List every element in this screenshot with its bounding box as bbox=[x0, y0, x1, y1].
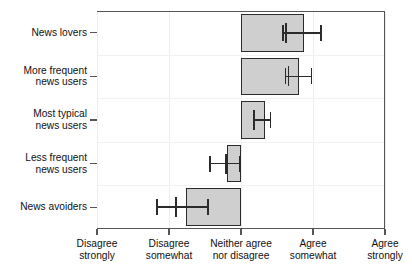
y-tick-mark-5 bbox=[90, 207, 97, 208]
error-bar-cap-1-low bbox=[282, 25, 284, 41]
gridline-horizontal bbox=[98, 142, 384, 143]
y-tick-mark-2 bbox=[90, 76, 97, 77]
error-bar-cap-4-low bbox=[209, 156, 211, 172]
y-axis-label-4: Less frequent news users bbox=[2, 152, 87, 175]
error-bar-line-5 bbox=[157, 206, 208, 208]
gridline-vertical bbox=[97, 12, 98, 228]
gridline-horizontal bbox=[98, 98, 384, 99]
y-tick-mark-4 bbox=[90, 163, 97, 164]
error-bar-cap-1-high bbox=[320, 25, 322, 41]
x-tick-mark-4 bbox=[312, 229, 313, 235]
y-axis-label-5: News avoiders bbox=[2, 201, 87, 213]
gridline-vertical bbox=[169, 12, 170, 228]
gridline-horizontal bbox=[98, 185, 384, 186]
point-estimate-marker-5 bbox=[175, 197, 177, 217]
chart-root: News loversMore frequent news usersMost … bbox=[0, 0, 412, 272]
y-tick-mark-1 bbox=[90, 32, 97, 33]
x-tick-mark-3 bbox=[240, 229, 241, 235]
point-estimate-marker-1 bbox=[285, 23, 287, 43]
y-axis-label-2: More frequent news users bbox=[2, 65, 87, 88]
point-estimate-marker-4 bbox=[225, 154, 227, 174]
x-tick-mark-1 bbox=[96, 229, 97, 235]
point-estimate-marker-3 bbox=[253, 110, 255, 130]
gridline-vertical bbox=[385, 12, 386, 228]
error-bar-line-3 bbox=[254, 119, 271, 121]
point-estimate-marker-2 bbox=[288, 66, 290, 86]
y-axis-label-1: News lovers bbox=[2, 27, 87, 39]
error-bar-cap-2-low bbox=[285, 68, 287, 84]
x-tick-mark-2 bbox=[168, 229, 169, 235]
error-bar-line-1 bbox=[283, 32, 321, 34]
x-tick-mark-5 bbox=[384, 229, 385, 235]
error-bar-cap-5-high bbox=[207, 199, 209, 215]
error-bar-line-2 bbox=[286, 76, 312, 78]
x-axis-label-5: Agree strongly bbox=[341, 238, 412, 261]
gridline-horizontal bbox=[98, 55, 384, 56]
error-bar-cap-4-high bbox=[239, 156, 241, 172]
y-tick-mark-3 bbox=[90, 119, 97, 120]
y-axis-label-3: Most typical news users bbox=[2, 108, 87, 131]
error-bar-cap-5-low bbox=[156, 199, 158, 215]
error-bar-cap-2-high bbox=[311, 68, 313, 84]
gridline-vertical bbox=[313, 12, 314, 228]
error-bar-cap-3-high bbox=[270, 112, 272, 128]
